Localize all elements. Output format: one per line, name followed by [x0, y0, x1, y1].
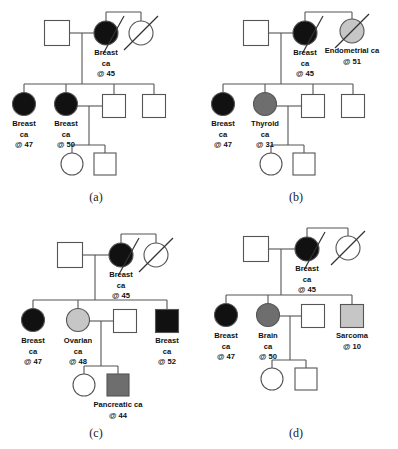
annotation-line: @ 45: [112, 291, 131, 300]
female-circle-symbol: [254, 93, 277, 116]
panel-caption-b: (b): [289, 190, 303, 204]
pedigree-panel-a: Breastca@ 45Breastca@ 47Breastca@ 50(a): [12, 12, 165, 204]
person-annotation-label: Breastca@ 45: [94, 48, 118, 78]
annotation-line: ca: [222, 342, 231, 351]
female-circle-symbol: [261, 368, 283, 390]
person-gen1-father-square[interactable]: [244, 21, 269, 46]
person-gen1-aunt-endometrial-ca-circle[interactable]: Endometrial ca@ 51: [325, 14, 380, 66]
annotation-line: Thyroid: [251, 119, 279, 128]
annotation-line: Brain: [258, 331, 278, 340]
annotation-line: ca: [102, 59, 111, 68]
female-circle-symbol: [73, 374, 95, 396]
person-gen3-daughter-circle[interactable]: [61, 153, 83, 175]
annotation-line: ca: [117, 281, 126, 290]
annotation-line: ca: [74, 347, 83, 356]
person-gen1-mother-breast-ca-circle[interactable]: Breastca@ 45: [109, 238, 139, 300]
person-gen2-spouse-square[interactable]: [302, 95, 325, 118]
person-gen2-sister2-brain-ca-circle[interactable]: Brainca@ 50: [257, 304, 280, 362]
panel-caption-a: (a): [89, 190, 102, 204]
person-gen1-mother-breast-ca-circle[interactable]: Breastca@ 45: [293, 16, 323, 78]
annotation-line: Sarcoma: [336, 331, 369, 340]
panel-caption-c: (c): [89, 426, 102, 440]
annotation-line: @ 47: [217, 352, 235, 361]
male-square-symbol: [293, 153, 315, 175]
male-square-symbol: [156, 310, 179, 333]
person-gen1-father-square[interactable]: [244, 237, 269, 262]
person-gen2-sister1-breast-ca-circle[interactable]: Breastca@ 47: [21, 309, 45, 367]
annotation-line: @ 48: [69, 357, 87, 366]
female-circle-symbol: [55, 93, 78, 116]
person-gen3-son-pancreatic-ca-square[interactable]: Pancreatic ca@ 44: [94, 374, 144, 420]
annotation-line: ca: [301, 59, 310, 68]
annotation-line: ca: [163, 347, 172, 356]
person-gen2-brother-square[interactable]: [143, 95, 166, 118]
person-annotation-label: Breastca@ 47: [21, 336, 45, 366]
person-gen3-son-square[interactable]: [295, 368, 317, 390]
person-annotation-label: Breastca@ 45: [109, 270, 133, 300]
person-gen1-mother-breast-ca-circle[interactable]: Breastca@ 45: [295, 232, 325, 294]
female-circle-symbol: [13, 93, 36, 116]
annotation-line: @ 45: [97, 69, 116, 78]
person-gen3-son-square[interactable]: [293, 153, 315, 175]
person-gen3-son-square[interactable]: [94, 153, 116, 175]
person-gen2-sister1-breast-ca-circle[interactable]: Breastca@ 47: [12, 93, 36, 150]
female-circle-symbol: [212, 93, 235, 116]
pedigree-figure: Breastca@ 45Breastca@ 47Breastca@ 50(a)B…: [0, 0, 398, 449]
person-annotation-label: Ovarianca@ 48: [64, 336, 93, 366]
pedigree-panel-c: Breastca@ 45Breastca@ 47Ovarianca@ 48Bre…: [21, 234, 179, 440]
person-gen2-spouse-square[interactable]: [114, 310, 137, 333]
annotation-line: Breast: [155, 336, 179, 345]
annotation-line: @ 50: [57, 140, 75, 149]
pedigree-panel-d: Breastca@ 45Breastca@ 47Brainca@ 50Sarco…: [214, 228, 369, 440]
female-circle-symbol: [67, 309, 90, 332]
male-square-symbol: [341, 305, 364, 328]
person-gen2-brother-square[interactable]: [342, 95, 365, 118]
person-gen2-brother-breast-ca-square[interactable]: Breastca@ 52: [155, 310, 179, 367]
annotation-line: @ 45: [296, 69, 315, 78]
male-square-symbol: [103, 95, 126, 118]
annotation-line: Breast: [12, 119, 36, 128]
person-annotation-label: Breastca@ 47: [214, 331, 238, 361]
person-gen2-sister1-breast-ca-circle[interactable]: Breastca@ 47: [211, 93, 235, 150]
annotation-line: @ 47: [214, 140, 232, 149]
person-gen1-mother-breast-ca-circle[interactable]: Breastca@ 45: [94, 16, 124, 78]
person-gen1-aunt-deceased-circle[interactable]: [331, 231, 365, 265]
female-circle-symbol: [22, 309, 45, 332]
person-gen3-daughter-circle[interactable]: [73, 374, 95, 396]
person-gen1-aunt-deceased-circle[interactable]: [124, 16, 158, 50]
person-annotation-label: Brainca@ 50: [258, 331, 278, 361]
person-gen2-spouse-square[interactable]: [103, 95, 126, 118]
person-gen2-spouse-square[interactable]: [302, 305, 325, 328]
person-annotation-label: Sarcoma@ 10: [336, 331, 369, 351]
annotation-line: @ 50: [259, 352, 277, 361]
panel-caption-d: (d): [289, 426, 303, 440]
annotation-line: ca: [219, 130, 228, 139]
person-annotation-label: Endometrial ca@ 51: [325, 46, 380, 66]
annotation-line: @ 52: [158, 357, 176, 366]
person-gen2-sister2-ovarian-ca-circle[interactable]: Ovarianca@ 48: [64, 309, 93, 367]
annotation-line: @ 47: [15, 140, 33, 149]
annotation-line: ca: [29, 347, 38, 356]
person-gen3-daughter-circle[interactable]: [261, 368, 283, 390]
person-gen2-sister2-thyroid-ca-circle[interactable]: Thyroidca@ 31: [251, 93, 279, 150]
male-square-symbol: [94, 153, 116, 175]
annotation-line: Breast: [211, 119, 235, 128]
annotation-line: ca: [303, 275, 312, 284]
person-gen2-brother-sarcoma-square[interactable]: Sarcoma@ 10: [336, 305, 369, 351]
person-annotation-label: Breastca@ 50: [54, 119, 78, 149]
male-square-symbol: [45, 21, 70, 46]
person-gen3-daughter-circle[interactable]: [260, 153, 282, 175]
person-gen1-father-square[interactable]: [45, 21, 70, 46]
annotation-line: @ 47: [24, 357, 42, 366]
annotation-line: Breast: [94, 48, 118, 57]
annotation-line: Breast: [295, 264, 319, 273]
person-gen1-aunt-deceased-circle[interactable]: [139, 238, 173, 272]
person-gen2-sister2-breast-ca-circle[interactable]: Breastca@ 50: [54, 93, 78, 150]
annotation-line: Breast: [214, 331, 238, 340]
person-gen2-sister1-breast-ca-circle[interactable]: Breastca@ 47: [214, 304, 238, 362]
female-circle-symbol: [260, 153, 282, 175]
male-square-symbol: [244, 21, 269, 46]
annotation-line: Endometrial ca: [325, 46, 380, 55]
person-gen1-father-square[interactable]: [58, 243, 83, 268]
male-square-symbol: [244, 237, 269, 262]
